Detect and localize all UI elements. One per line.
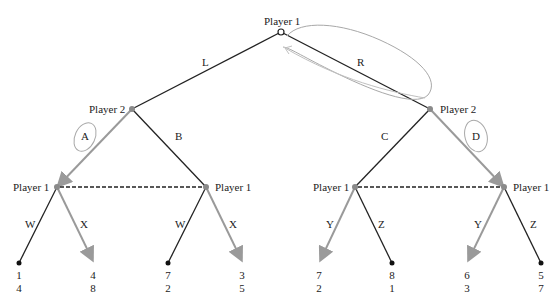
p2-left-label: Player 2 <box>89 103 125 115</box>
edge-B <box>132 109 206 187</box>
action-Z2: Z <box>530 218 537 230</box>
payoff-5: 72 <box>312 269 326 295</box>
action-A: A <box>81 130 89 142</box>
payoff-7: 63 <box>460 269 474 295</box>
p1-node-3 <box>352 184 358 190</box>
action-L: L <box>202 56 209 68</box>
action-D: D <box>472 130 480 142</box>
payoff-2: 48 <box>86 269 100 295</box>
edge-A <box>59 109 132 185</box>
p2-right-label: Player 2 <box>440 103 476 115</box>
action-Y1: Y <box>326 218 334 230</box>
root-node <box>278 29 284 35</box>
payoff-6: 81 <box>385 269 399 295</box>
edge-D <box>430 109 502 185</box>
action-R: R <box>357 56 364 68</box>
edge-W2 <box>168 187 206 263</box>
edge-Z1 <box>355 187 392 263</box>
action-Z1: Z <box>378 218 385 230</box>
leaf-node <box>166 261 171 266</box>
p1-node-1 <box>54 184 60 190</box>
p1-label-4: Player 1 <box>513 181 549 193</box>
p1-node-4 <box>501 184 507 190</box>
p1-label-1: Player 1 <box>13 181 49 193</box>
edge-R <box>281 32 430 109</box>
action-X1: X <box>80 218 88 230</box>
p2-node-right <box>427 106 433 112</box>
action-W1: W <box>25 218 35 230</box>
p1-label-3: Player 1 <box>313 181 349 193</box>
edge-L <box>132 32 281 109</box>
action-C: C <box>381 130 388 142</box>
leaf-node <box>17 261 22 266</box>
game-tree <box>0 0 558 306</box>
edge-C <box>355 109 430 187</box>
action-B: B <box>175 130 182 142</box>
payoff-4: 35 <box>235 269 249 295</box>
action-W2: W <box>175 218 185 230</box>
root-label: Player 1 <box>264 15 300 27</box>
p1-label-2: Player 1 <box>215 181 251 193</box>
arrow-annotation-R <box>285 46 425 98</box>
p1-node-2 <box>203 184 209 190</box>
payoff-8: 57 <box>534 269 548 295</box>
action-X2: X <box>229 218 237 230</box>
leaf-node <box>539 261 544 266</box>
payoff-3: 72 <box>161 269 175 295</box>
p2-node-left <box>129 106 135 112</box>
action-Y2: Y <box>474 218 482 230</box>
leaf-node <box>390 261 395 266</box>
payoff-1: 14 <box>12 269 26 295</box>
